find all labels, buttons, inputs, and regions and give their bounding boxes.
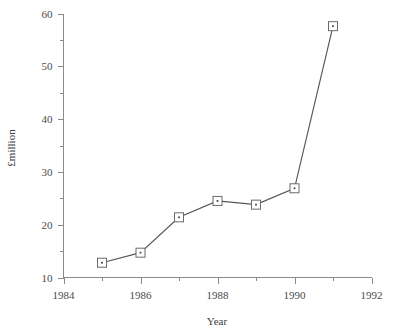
y-tick-label: 10 <box>42 272 54 284</box>
data-point-marker <box>175 213 184 222</box>
y-tick-label: 40 <box>42 113 54 125</box>
y-axis-title: £million <box>5 129 17 167</box>
x-axis-ticks <box>65 278 373 284</box>
x-axis-tick-labels: 19841986198819901992 <box>53 289 383 301</box>
data-point-marker <box>98 258 107 267</box>
data-point-marker <box>329 22 338 31</box>
x-tick-label: 1990 <box>284 289 307 301</box>
y-axis-ticks <box>58 15 64 279</box>
data-point-marker <box>290 184 299 193</box>
y-tick-label: 60 <box>42 8 54 20</box>
data-point-markers <box>98 22 338 268</box>
data-point-marker <box>252 200 261 209</box>
x-tick-label: 1986 <box>130 289 153 301</box>
chart-canvas: 605040302010 19841986198819901992 £milli… <box>0 0 394 333</box>
y-tick-label: 20 <box>42 219 54 231</box>
y-tick-label: 30 <box>42 166 54 178</box>
axis-lines <box>64 14 372 278</box>
y-tick-label: 50 <box>42 60 54 72</box>
x-axis-title: Year <box>207 315 228 327</box>
y-axis-tick-labels: 605040302010 <box>42 8 54 284</box>
x-tick-label: 1984 <box>53 289 76 301</box>
line-chart: 605040302010 19841986198819901992 £milli… <box>0 0 394 333</box>
x-tick-label: 1992 <box>361 289 383 301</box>
data-point-marker <box>136 248 145 257</box>
data-series-line <box>102 26 333 263</box>
x-tick-label: 1988 <box>207 289 230 301</box>
data-point-marker <box>213 196 222 205</box>
